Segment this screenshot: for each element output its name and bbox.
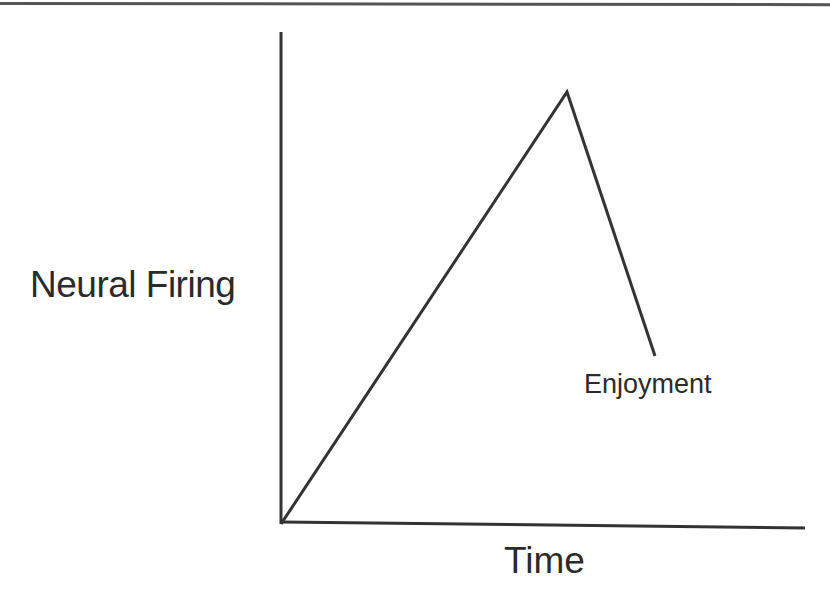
enjoyment-line [281,92,655,524]
x-axis-label: Time [504,540,585,582]
series-annotation: Enjoyment [584,369,712,400]
x-axis [281,522,805,528]
y-axis-label: Neural Firing [30,264,235,306]
